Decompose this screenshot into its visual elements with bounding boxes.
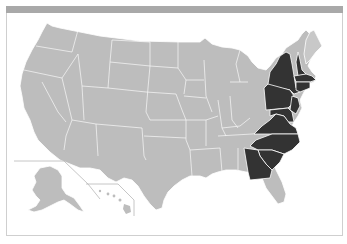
- hawaii-inset: [86, 184, 134, 216]
- state-connecticut-rhode-island: [296, 82, 310, 92]
- us-map: [0, 0, 347, 244]
- alaska-inset: [14, 161, 100, 212]
